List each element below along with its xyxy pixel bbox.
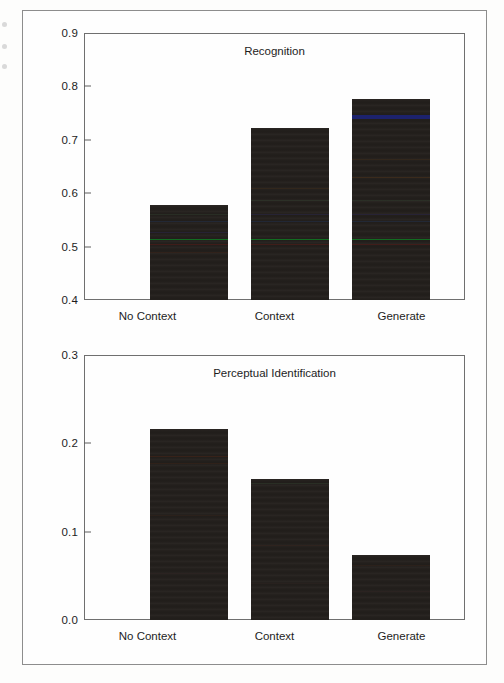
bar-texture-line <box>352 221 430 222</box>
x-label-no-context: No Context <box>84 310 211 322</box>
y-tick-label: 0.1 <box>61 526 78 538</box>
bar-texture-line <box>352 177 430 178</box>
bar-texture-line <box>251 239 329 240</box>
bar-no-context[interactable] <box>150 205 228 300</box>
x-label-no-context: No Context <box>84 630 211 642</box>
x-axis-labels-recognition: No Context Context Generate <box>84 310 465 322</box>
bar-texture-line <box>352 115 430 119</box>
bar-texture-line <box>150 214 228 215</box>
y-tick-label: 0.9 <box>61 27 78 39</box>
bar-texture-line <box>251 221 329 222</box>
x-label-generate: Generate <box>338 630 465 642</box>
bar-generate[interactable] <box>352 555 430 620</box>
bar-texture-line <box>251 188 329 189</box>
x-axis-labels-perceptual-identification: No Context Context Generate <box>84 630 465 642</box>
y-tick-label: 0.6 <box>61 187 78 199</box>
bar-texture-line <box>150 232 228 233</box>
scan-artifact-dot <box>2 64 7 69</box>
bar-no-context[interactable] <box>150 429 228 620</box>
y-axis-recognition: 0.9 0.8 0.7 0.6 0.5 0.4 <box>44 33 78 300</box>
y-tick-label: 0.5 <box>61 241 78 253</box>
bar-texture-line <box>251 545 329 546</box>
bar-context[interactable] <box>251 479 329 620</box>
scan-artifact-dot <box>2 22 7 27</box>
bar-texture-line <box>352 214 430 215</box>
bar-texture-line <box>251 214 329 215</box>
scan-artifact-dot <box>2 44 7 49</box>
bar-texture-line <box>352 159 430 160</box>
bars-layer-recognition <box>84 10 487 340</box>
bar-texture-line <box>352 244 430 245</box>
bar-texture-line <box>352 200 430 201</box>
bar-context[interactable] <box>251 128 329 300</box>
bar-texture-line <box>150 244 228 245</box>
y-axis-perceptual-identification: 0.3 0.2 0.1 0.0 <box>44 355 78 620</box>
bar-texture-line <box>251 200 329 201</box>
bars-layer-perceptual-identification <box>84 333 487 665</box>
x-label-context: Context <box>211 310 338 322</box>
bar-texture-line <box>150 515 228 516</box>
bar-texture-line <box>150 252 228 253</box>
y-tick-label: 0.0 <box>61 614 78 626</box>
bar-texture-line <box>150 456 228 457</box>
bar-texture-line <box>352 565 430 566</box>
bar-generate[interactable] <box>352 99 430 300</box>
y-tick-label: 0.4 <box>61 294 78 306</box>
bar-texture-line <box>352 239 430 240</box>
y-tick-label: 0.2 <box>61 437 78 449</box>
x-label-generate: Generate <box>338 310 465 322</box>
bar-texture-line <box>150 239 228 240</box>
bar-texture-line <box>251 483 329 484</box>
bar-texture-line <box>251 583 329 584</box>
bar-texture-line <box>150 463 228 464</box>
y-tick-label: 0.8 <box>61 80 78 92</box>
x-label-context: Context <box>211 630 338 642</box>
bar-texture-line <box>352 591 430 592</box>
chart-panel-perceptual-identification: Perceptual Identification 0.3 0.2 0.1 0.… <box>22 333 487 665</box>
chart-panel-recognition: Recognition 0.9 0.8 0.7 0.6 0.5 0.4 <box>22 10 487 340</box>
bar-texture-line <box>150 573 228 574</box>
y-tick-label: 0.7 <box>61 134 78 146</box>
bar-texture-line <box>251 244 329 245</box>
bar-texture-line <box>150 221 228 222</box>
y-tick-label: 0.3 <box>61 349 78 361</box>
